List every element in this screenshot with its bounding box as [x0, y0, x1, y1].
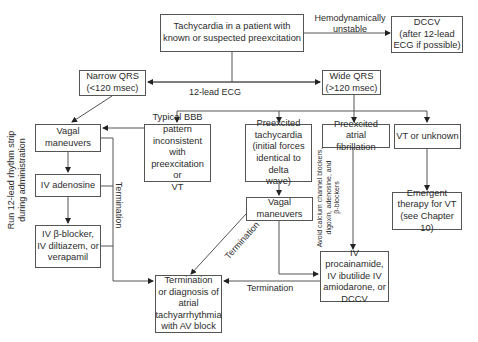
dccv-node: DCCV (after 12-lead ECG if possible) — [391, 16, 463, 53]
narrow-qrs-node: Narrow QRS (<120 msec) — [79, 70, 146, 96]
emergent-vt-therapy-node: Emergent therapy for VT (see Chapter 10) — [392, 192, 462, 230]
run-rhythm-strip-label: Run 12-lead rhythm strip during administ… — [6, 110, 28, 250]
preexcited-tachycardia-node: Preexcited tachycardia (initial forces i… — [245, 124, 312, 182]
termination-horizontal-label: Termination — [230, 283, 310, 294]
procainamide-node: IV procainamide, IV ibutilide IV amiodar… — [320, 251, 389, 302]
vagal-maneuvers-left-node: Vagal maneuvers — [35, 124, 101, 152]
vt-unknown-node: VT or unknown — [394, 124, 461, 149]
termination-vertical-label: Termination — [113, 170, 124, 240]
typical-bbb-node: Typical BBB pattern inconsistent with pr… — [144, 124, 211, 182]
termination-node: Termination or diagnosis of atrial tachy… — [155, 275, 222, 333]
iv-adenosine-node: IV adenosine — [35, 174, 101, 197]
start-node: Tachycardia in a patient with known or s… — [160, 14, 304, 52]
hemodynamically-unstable-label: Hemodynamically unstable — [310, 13, 390, 34]
avoid-drugs-warning: Avoid calcium channel blockers, digoxin,… — [316, 145, 342, 250]
wide-qrs-node: Wide QRS (>120 msec) — [322, 70, 381, 95]
iv-beta-blocker-node: IV β-blocker, IV diltiazem, or verapamil — [35, 225, 101, 268]
ecg-label: 12-lead ECG — [185, 87, 245, 98]
